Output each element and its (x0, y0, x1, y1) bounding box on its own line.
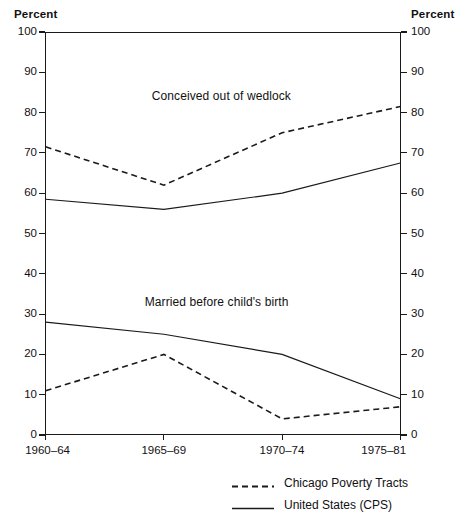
y-tick-right (401, 152, 407, 153)
series-line (46, 163, 401, 209)
y-tick-right (401, 273, 407, 274)
y-tick-label-right: 10 (411, 389, 451, 401)
y-tick-right (401, 112, 407, 113)
y-tick-right (401, 394, 407, 395)
x-tick-label: 1960–64 (25, 444, 70, 456)
y-tick-right (401, 72, 407, 73)
legend-dashed-key-icon (232, 485, 274, 487)
plot-annotation: Married before child's birth (145, 295, 289, 309)
y-tick-label-left: 20 (0, 348, 37, 360)
legend-solid-key-icon (232, 507, 274, 509)
y-tick-label-right: 70 (411, 147, 451, 159)
y-tick-label-left: 50 (0, 228, 37, 240)
right-axis-caption: Percent (411, 8, 455, 20)
y-tick-right (401, 31, 407, 32)
y-tick-label-left: 10 (0, 389, 37, 401)
y-tick-label-right: 40 (411, 268, 451, 280)
y-tick-label-left: 70 (0, 147, 37, 159)
plot-area: 0102030405060708090100 01020304050607080… (45, 32, 401, 435)
y-tick-label-right: 90 (411, 66, 451, 78)
y-tick-label-left: 60 (0, 187, 37, 199)
plot-annotation: Conceived out of wedlock (152, 89, 291, 103)
y-tick-right (401, 354, 407, 355)
x-tick-label: 1970–74 (260, 444, 305, 456)
y-tick-label-left: 40 (0, 268, 37, 280)
y-tick-label-right: 30 (411, 308, 451, 320)
y-tick-label-right: 20 (411, 348, 451, 360)
y-tick-label-right: 60 (411, 187, 451, 199)
x-tick-label: 1975–81 (361, 444, 406, 456)
legend-label: Chicago Poverty Tracts (284, 476, 408, 490)
y-tick-label-left: 100 (0, 26, 37, 38)
y-tick-right (401, 233, 407, 234)
y-tick-right (401, 314, 407, 315)
series-line (46, 354, 401, 418)
legend-label: United States (CPS) (284, 498, 392, 512)
y-tick-label-left: 90 (0, 66, 37, 78)
x-tick-label: 1965–69 (141, 444, 186, 456)
y-tick-label-left: 80 (0, 107, 37, 119)
chart-title-cropped: Percent of Births Conceived Out of Wedlo… (0, 0, 461, 7)
y-tick-label-right: 50 (411, 228, 451, 240)
y-tick-right (401, 193, 407, 194)
y-tick-label-left: 0 (0, 429, 37, 441)
y-tick-label-right: 0 (411, 429, 451, 441)
series-line (46, 107, 401, 186)
y-tick-label-right: 100 (411, 26, 451, 38)
y-tick-label-left: 30 (0, 308, 37, 320)
left-axis-caption: Percent (14, 8, 58, 20)
y-tick-label-right: 80 (411, 107, 451, 119)
chart-title-text: Percent of Births Conceived Out of Wedlo… (96, 0, 362, 3)
y-tick-right (401, 434, 407, 435)
